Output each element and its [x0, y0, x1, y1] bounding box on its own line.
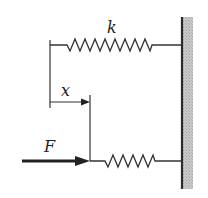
spring-constant-label: k [107, 18, 117, 37]
top-spring [50, 39, 182, 51]
force-label: F [43, 137, 56, 156]
force-arrow [22, 156, 90, 166]
bottom-spring [90, 155, 182, 167]
spring-diagram: k x F [0, 0, 208, 198]
fixed-wall [182, 17, 193, 189]
displacement-label: x [61, 81, 70, 100]
